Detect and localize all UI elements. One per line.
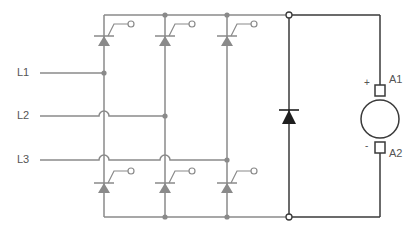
thyristor-lower-3 [217, 168, 257, 193]
polarity-minus: - [365, 141, 368, 151]
terminal-positive [286, 12, 292, 18]
thyristor-lower-2 [155, 168, 195, 193]
circuit-schematic [0, 0, 414, 232]
thyristor-upper-1 [94, 21, 134, 46]
label-l1: L1 [17, 67, 29, 78]
label-l2: L2 [17, 110, 29, 121]
thyristor-lower-1 [94, 168, 134, 193]
polarity-plus: + [364, 78, 370, 88]
circuit-diagram: L1 L2 L3 A1 A2 + - [0, 0, 414, 232]
freewheeling-diode [279, 110, 299, 124]
terminal-negative [286, 214, 292, 220]
thyristor-upper-2 [155, 21, 195, 46]
label-a2: A2 [389, 148, 402, 159]
label-l3: L3 [17, 154, 29, 165]
label-a1: A1 [389, 74, 402, 85]
thyristor-upper-3 [217, 21, 257, 46]
